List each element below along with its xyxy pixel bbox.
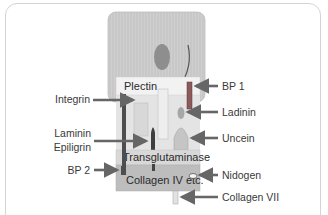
transglutaminase-label: Transglutaminase <box>123 151 210 163</box>
basement-membrane-diagram: Plectin Transglutaminase Collagen IV etc… <box>0 0 328 215</box>
integrin-label: Integrin <box>55 93 90 105</box>
bp2-block <box>121 166 126 175</box>
laminin-connector <box>152 164 155 171</box>
nidogen-label: Nidogen <box>222 169 261 181</box>
ladinin-shape <box>178 107 185 119</box>
bp1-bar <box>187 82 192 109</box>
nidogen-shape <box>189 174 197 179</box>
integrin-domain <box>134 103 148 136</box>
bp2-label: BP 2 <box>67 164 90 176</box>
ladinin-label: Ladinin <box>222 106 256 118</box>
epiligrin-shape <box>151 128 155 153</box>
bp1-label: BP 1 <box>222 80 245 92</box>
uncein-label: Uncein <box>222 132 255 144</box>
plectin-label: Plectin <box>124 80 157 92</box>
epiligrin-label: Epiligrin <box>54 141 92 153</box>
laminin-label: Laminin <box>54 127 91 139</box>
collagen-vii-fibril <box>173 191 178 204</box>
nucleus <box>154 44 170 70</box>
collagen-vii-label: Collagen VII <box>222 191 279 203</box>
central-anchor <box>158 89 168 139</box>
integrin-bar <box>122 94 126 174</box>
